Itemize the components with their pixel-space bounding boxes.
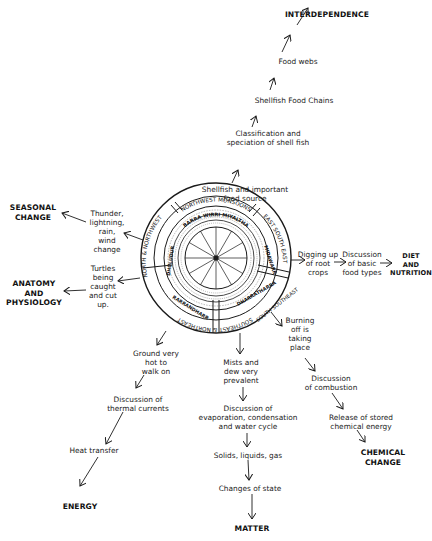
concept-seasonal-change: SEASONAL CHANGE bbox=[8, 203, 58, 222]
wheel-second-label-bottom-right: DHARRATHARRA bbox=[236, 280, 277, 307]
node-digging-root-crops: Digging up of root crops bbox=[296, 250, 340, 277]
concept-chemical-change: CHEMICAL CHANGE bbox=[352, 448, 414, 467]
wheel-outer-label-right: EAST SOUTH EAST bbox=[262, 213, 288, 264]
node-shellfish-food-source: Shellfish and important food source bbox=[195, 185, 295, 203]
concept-interdependence: INTERDEPENDENCE bbox=[272, 10, 382, 20]
wheel-second-label-top: BARRA WIRRI MIYALTHA bbox=[182, 211, 251, 228]
wheel-outer-label-left: NORTH & NORTHWEST bbox=[141, 214, 163, 278]
wheel-second-label-bottom-left: RARRANDHARR bbox=[171, 295, 209, 321]
node-thermal-currents: Discussion of thermal currents bbox=[100, 395, 176, 413]
node-food-webs: Food webs bbox=[268, 57, 328, 66]
wheel-second-label-right: MIDAWARR bbox=[263, 245, 277, 276]
node-release-chemical-energy: Release of stored chemical energy bbox=[324, 413, 398, 431]
concept-matter: MATTER bbox=[222, 524, 282, 534]
wheel-outer-label-bottom: SOUTHEAST & NORTHEAST bbox=[176, 316, 254, 333]
node-solids-liquids-gas: Solids, liquids, gas bbox=[206, 451, 290, 460]
node-classification-shellfish: Classification and speciation of shell f… bbox=[218, 129, 318, 147]
concept-anatomy-physiology: ANATOMY AND PHYSIOLOGY bbox=[4, 279, 64, 308]
node-mists-dew: Mists and dew very prevalent bbox=[214, 358, 268, 385]
node-thunder-lightning: Thunder, lightning, rain, wind change bbox=[86, 209, 128, 254]
wheel-second-label-left: DHULUDUR bbox=[166, 245, 175, 276]
concept-diet-nutrition: DIET AND NUTRITION bbox=[390, 252, 432, 278]
node-shellfish-food-chains: Shellfish Food Chains bbox=[244, 96, 344, 105]
node-discussion-combustion: Discussion of combustion bbox=[298, 374, 364, 392]
node-ground-very-hot: Ground very hot to walk on bbox=[131, 349, 181, 376]
node-burning-off: Burning off is taking place bbox=[280, 316, 320, 352]
node-evaporation-water-cycle: Discussion of evaporation, condensation … bbox=[196, 404, 300, 431]
node-turtles-caught: Turtles being caught and cut up. bbox=[84, 264, 122, 309]
concept-energy: ENERGY bbox=[50, 502, 110, 512]
node-basic-food-types: Discussion of basic food types bbox=[340, 250, 384, 277]
node-heat-transfer: Heat transfer bbox=[64, 446, 124, 455]
node-changes-of-state: Changes of state bbox=[212, 484, 288, 493]
